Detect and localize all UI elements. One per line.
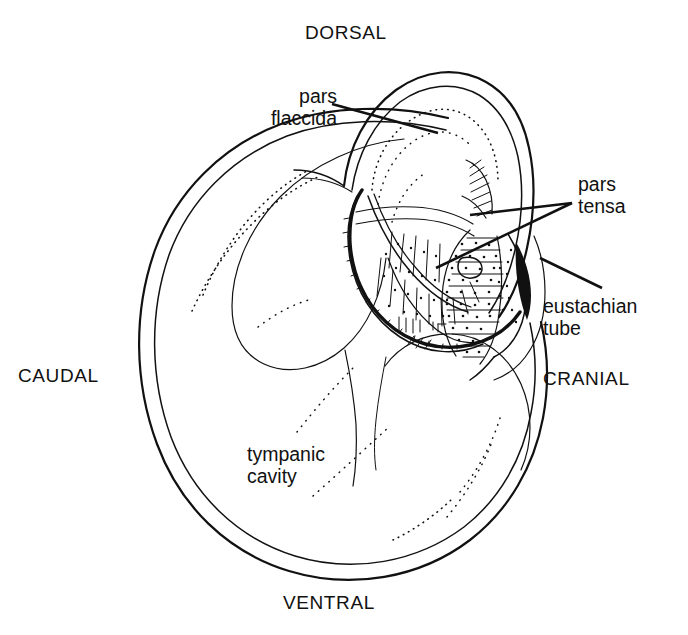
leader-eustachian-tube	[540, 258, 602, 288]
anatomical-figure: DORSAL VENTRAL CAUDAL CRANIAL pars flacc…	[0, 0, 688, 635]
malleus-hatching	[462, 160, 492, 218]
orientation-label-dorsal: DORSAL	[305, 22, 387, 43]
eustachian-tube-region	[470, 234, 545, 380]
orientation-label-caudal: CAUDAL	[18, 365, 99, 386]
part-label-eustachian-tube: eustachian tube	[543, 296, 637, 340]
membrane-crescent-rim	[343, 190, 520, 352]
part-label-pars-tensa: pars tensa	[578, 174, 626, 218]
leader-pars-tensa-lower	[436, 203, 572, 268]
part-label-tympanic-cavity: tympanic cavity	[247, 444, 325, 488]
orientation-label-ventral: VENTRAL	[283, 592, 375, 613]
pars-flaccida-region	[356, 109, 498, 236]
part-label-pars-flaccida: pars flaccida	[245, 86, 337, 130]
orientation-label-cranial: CRANIAL	[543, 368, 630, 389]
